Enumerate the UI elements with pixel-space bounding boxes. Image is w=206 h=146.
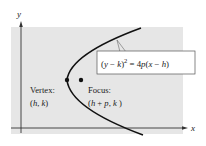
y-axis-arrow-icon	[19, 21, 23, 27]
equation-text: (y − k)2 = 4p(x − h)	[101, 57, 169, 69]
vertex-title: Vertex:	[30, 85, 55, 95]
focus-coordinates: (h + p, k )	[88, 98, 122, 108]
focus-title: Focus:	[88, 85, 111, 95]
parabola-diagram: y x (y − k)2 = 4p(x − h) Vertex: (h, k) …	[0, 0, 206, 146]
vertex-coordinates: (h, k)	[30, 98, 48, 108]
shaded-region	[11, 27, 183, 134]
diagram-canvas: y x (y − k)2 = 4p(x − h) Vertex: (h, k) …	[0, 0, 206, 146]
focus-point	[79, 78, 83, 82]
vertex-point	[65, 78, 69, 82]
y-axis-label: y	[16, 9, 21, 19]
x-axis-arrow-icon	[182, 126, 188, 130]
x-axis-label: x	[190, 123, 195, 133]
